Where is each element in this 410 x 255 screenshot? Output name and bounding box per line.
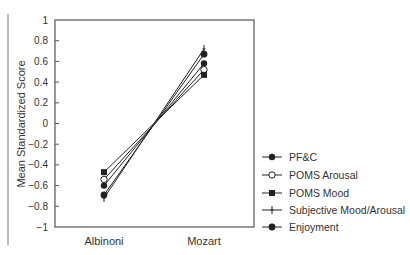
y-tick-label: 0.4 <box>34 77 48 88</box>
filled-circle-marker-icon <box>269 154 275 160</box>
y-tick-label: −0.8 <box>28 201 48 212</box>
filled-square-marker-icon <box>201 72 207 78</box>
y-tick-label: 0.6 <box>34 56 48 67</box>
y-tick-label: −0.2 <box>28 139 48 150</box>
legend: PF&CPOMS ArousalPOMS MoodSubjective Mood… <box>262 151 405 233</box>
y-tick-label: 0.8 <box>34 35 48 46</box>
line-chart: Mean Standardized Score 10.80.60.40.20−0… <box>0 0 410 255</box>
legend-item: Enjoyment <box>262 221 339 233</box>
legend-item: PF&C <box>262 151 317 163</box>
series-line <box>104 54 204 195</box>
y-axis-title: Mean Standardized Score <box>15 60 27 187</box>
x-category-label: Albinoni <box>84 235 123 247</box>
y-tick-label: 1 <box>42 15 48 26</box>
y-axis-ticks: 10.80.60.40.20−0.2−0.4−0.6−0.8−1 <box>28 15 59 233</box>
filled-circle-marker-icon <box>101 182 107 188</box>
filled-diamond-marker-icon <box>101 192 108 199</box>
y-tick-label: 0 <box>42 118 48 129</box>
legend-label: POMS Mood <box>289 187 349 199</box>
legend-label: Subjective Mood/Arousal <box>289 204 405 216</box>
y-tick-label: −0.6 <box>28 180 48 191</box>
legend-item: POMS Arousal <box>262 169 358 181</box>
legend-item: Subjective Mood/Arousal <box>262 204 405 216</box>
legend-item: POMS Mood <box>262 187 349 199</box>
filled-diamond-marker-icon <box>269 224 276 231</box>
open-circle-marker-icon <box>269 172 275 178</box>
x-axis-categories: AlbinoniMozart <box>84 235 220 247</box>
series-line <box>104 49 204 198</box>
filled-circle-marker-icon <box>201 60 207 66</box>
y-axis-title-group: Mean Standardized Score <box>15 60 27 187</box>
y-tick-label: 0.2 <box>34 97 48 108</box>
filled-square-marker-icon <box>101 169 107 175</box>
x-category-label: Mozart <box>187 235 221 247</box>
open-circle-marker-icon <box>101 176 107 182</box>
series-lines <box>104 49 204 198</box>
filled-square-marker-icon <box>269 190 275 196</box>
y-tick-label: −0.4 <box>28 159 48 170</box>
legend-label: PF&C <box>289 151 317 163</box>
legend-label: POMS Arousal <box>289 169 358 181</box>
y-tick-label: −1 <box>37 222 49 233</box>
legend-label: Enjoyment <box>289 221 339 233</box>
cross-marker-icon <box>271 206 274 214</box>
filled-diamond-marker-icon <box>201 51 208 58</box>
